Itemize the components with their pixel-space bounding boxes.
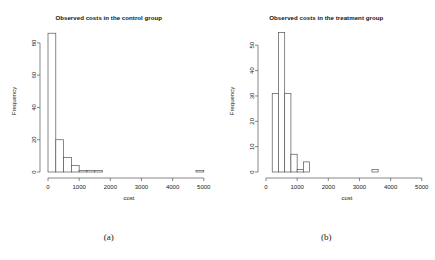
svg-text:1000: 1000 <box>72 184 86 190</box>
svg-text:1000: 1000 <box>290 184 304 190</box>
svg-text:80: 80 <box>31 39 37 46</box>
svg-text:0: 0 <box>264 184 268 190</box>
subfigure-caption-a: (a) <box>0 232 218 242</box>
subfigure-caption-b: (b) <box>218 232 435 242</box>
svg-text:40: 40 <box>248 67 254 74</box>
svg-text:0: 0 <box>31 170 37 174</box>
panel-control: Observed costs in the control group 0204… <box>0 0 218 260</box>
svg-text:2000: 2000 <box>104 184 118 190</box>
svg-text:Frequency: Frequency <box>229 87 235 115</box>
svg-text:Frequency: Frequency <box>11 87 17 115</box>
panel-treatment: Observed costs in the treatment group 01… <box>218 0 435 260</box>
svg-text:3000: 3000 <box>135 184 149 190</box>
svg-text:2000: 2000 <box>321 184 335 190</box>
svg-text:40: 40 <box>31 103 37 110</box>
svg-text:60: 60 <box>31 71 37 78</box>
svg-text:30: 30 <box>248 92 254 99</box>
svg-text:cost: cost <box>341 195 352 201</box>
svg-text:0: 0 <box>46 184 50 190</box>
histogram-treatment: 01020304050010002000300040005000costFreq… <box>218 0 435 215</box>
svg-text:50: 50 <box>248 41 254 48</box>
svg-text:20: 20 <box>31 136 37 143</box>
svg-text:5000: 5000 <box>197 184 211 190</box>
svg-text:0: 0 <box>248 170 254 174</box>
svg-text:5000: 5000 <box>415 184 429 190</box>
histogram-control: 020406080010002000300040005000costFreque… <box>0 0 218 215</box>
svg-text:4000: 4000 <box>166 184 180 190</box>
svg-text:cost: cost <box>123 195 134 201</box>
svg-text:3000: 3000 <box>352 184 366 190</box>
svg-text:10: 10 <box>248 143 254 150</box>
svg-text:4000: 4000 <box>383 184 397 190</box>
svg-text:20: 20 <box>248 117 254 124</box>
figure-container: Observed costs in the control group 0204… <box>0 0 435 260</box>
